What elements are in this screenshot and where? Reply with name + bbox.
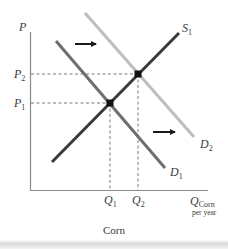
equilibrium-point-1 (107, 100, 114, 107)
y-axis-label: P (18, 20, 27, 34)
chart-caption: Corn (103, 224, 126, 236)
x-axis-unit: per year (192, 208, 217, 217)
equilibrium-point-2 (135, 71, 142, 78)
d2-label: D2 (199, 137, 213, 153)
s1-label: S1 (182, 21, 192, 37)
q1-label: Q1 (104, 193, 117, 209)
supply-demand-chart: P P2 P1 Q1 Q2 QCorn per year S1 D2 D1 Co… (0, 0, 228, 249)
p2-label: P2 (13, 67, 25, 83)
bottom-edge-shadow (0, 240, 228, 249)
x-axis-label: QCorn (190, 194, 215, 209)
p1-label: P1 (13, 96, 25, 112)
q2-label: Q2 (132, 193, 145, 209)
d1-label: D1 (169, 165, 183, 181)
